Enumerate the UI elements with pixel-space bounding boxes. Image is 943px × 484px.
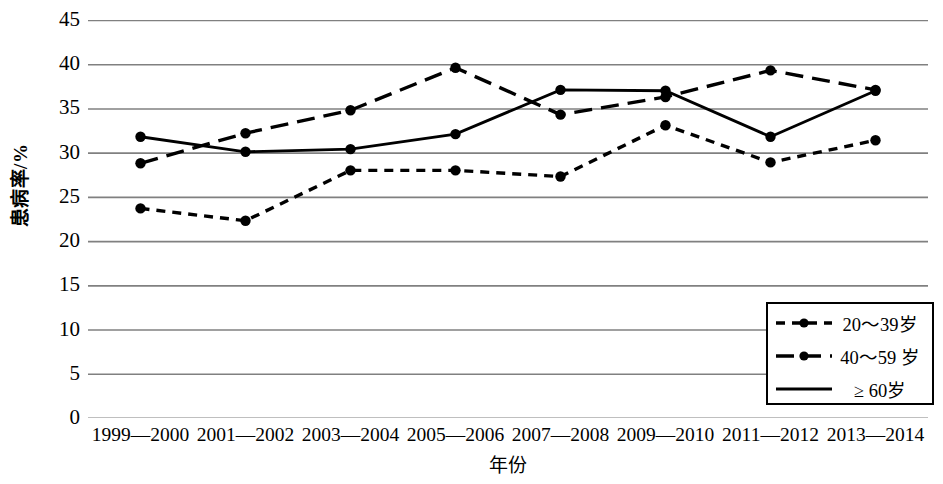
data-point (345, 105, 355, 115)
data-point (345, 165, 355, 175)
x-tick-label: 2013—2014 (827, 422, 925, 448)
x-tick-label: 2005—2006 (407, 422, 505, 448)
data-point (555, 85, 565, 95)
x-tick-label: 2009—2010 (617, 422, 715, 448)
data-point (660, 86, 670, 96)
y-tick-label: 35 (22, 97, 80, 118)
legend-line-sample-icon (774, 379, 834, 399)
x-tick-label: 2003—2004 (302, 422, 400, 448)
data-point (240, 216, 250, 226)
data-point (765, 65, 775, 75)
legend-line-sample-icon (774, 346, 834, 366)
data-point (135, 158, 145, 168)
y-tick-label: 45 (22, 9, 80, 30)
data-point (870, 86, 880, 96)
line-chart: 患病率/% 454035302520151050 1999—20002001—2… (0, 0, 943, 484)
x-tick-label: 2001—2002 (197, 422, 295, 448)
data-point (345, 144, 355, 154)
y-tick-label: 20 (22, 230, 80, 251)
y-tick-label: 25 (22, 186, 80, 207)
data-point (870, 135, 880, 145)
data-point (240, 147, 250, 157)
series-line-1 (141, 68, 876, 164)
y-tick-label: 40 (22, 53, 80, 74)
data-point (765, 132, 775, 142)
data-point (135, 203, 145, 213)
data-point (135, 132, 145, 142)
data-point (450, 63, 460, 73)
data-point (660, 120, 670, 130)
data-point (450, 129, 460, 139)
y-tick-label: 10 (22, 319, 80, 340)
y-tick-label: 0 (22, 407, 80, 428)
legend-label: 20～39岁 (834, 310, 932, 336)
x-axis-tick-labels: 1999—20002001—20022003—20042005—20062007… (88, 422, 928, 452)
x-axis-title: 年份 (88, 450, 928, 477)
x-tick-label: 2007—2008 (512, 422, 610, 448)
legend-line-sample-icon (774, 313, 834, 333)
y-tick-label: 15 (22, 274, 80, 295)
data-point (555, 109, 565, 119)
legend-label: ≥ 60岁 (834, 376, 932, 402)
y-tick-label: 30 (22, 142, 80, 163)
legend-label: 40～59 岁 (834, 343, 932, 369)
legend-item[interactable]: ≥ 60岁 (768, 372, 932, 405)
series-line-2 (141, 90, 876, 152)
y-tick-label: 5 (22, 363, 80, 384)
legend-item[interactable]: 20～39岁 (768, 306, 932, 339)
data-point (555, 171, 565, 181)
y-axis-tick-labels: 454035302520151050 (22, 0, 80, 484)
data-point (450, 165, 460, 175)
x-tick-label: 1999—2000 (92, 422, 190, 448)
series-line-0 (141, 125, 876, 221)
chart-legend: 20～39岁40～59 岁≥ 60岁 (766, 302, 934, 405)
data-point (240, 128, 250, 138)
legend-item[interactable]: 40～59 岁 (768, 339, 932, 372)
data-point (765, 157, 775, 167)
x-tick-label: 2011—2012 (722, 422, 819, 448)
